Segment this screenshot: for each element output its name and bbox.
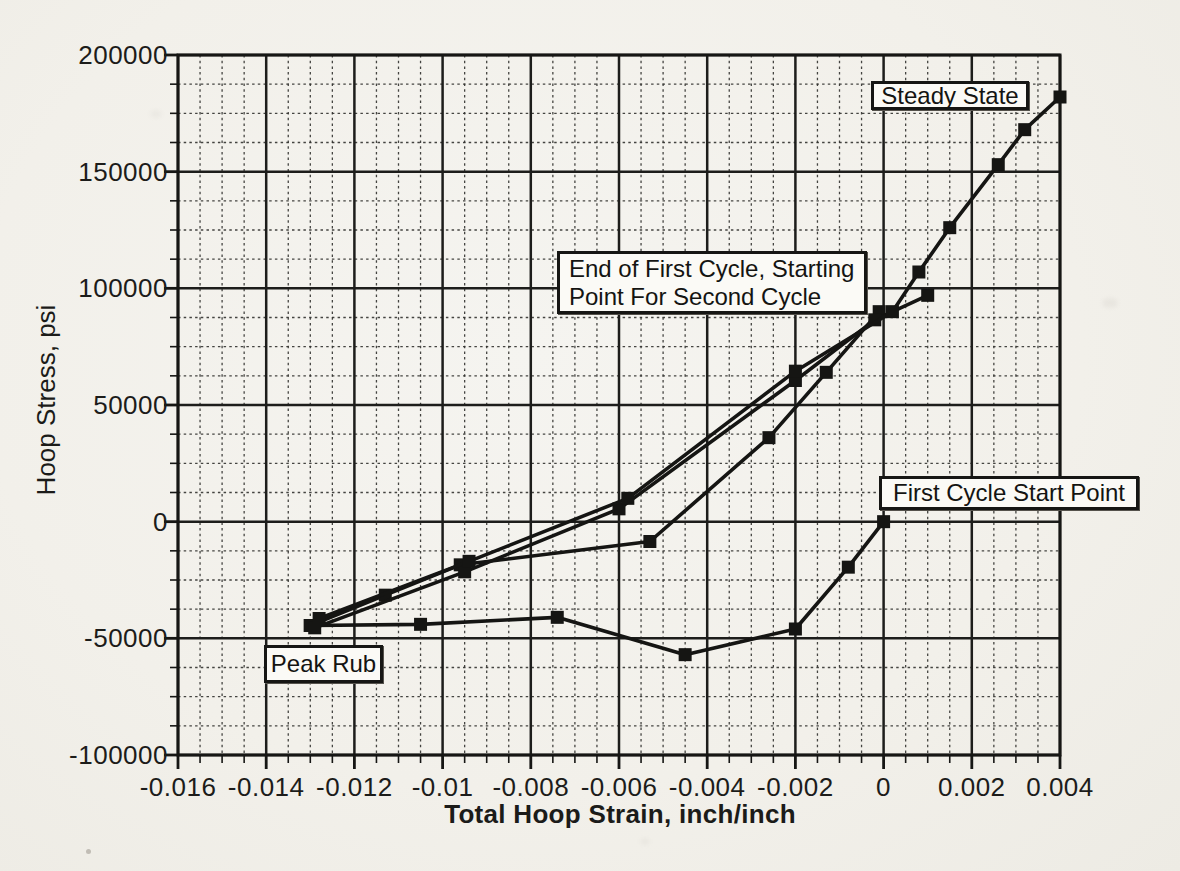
data-point-marker [789, 623, 802, 636]
data-point-marker [820, 366, 833, 379]
y-tick-label: -100000 [8, 740, 168, 771]
data-point-marker [886, 305, 899, 318]
data-point-marker [463, 555, 476, 568]
chart-canvas [0, 0, 1180, 871]
annotation-first-cycle-start-point: First Cycle Start Point [879, 476, 1139, 510]
data-point-marker [992, 158, 1005, 171]
y-axis-title: Hoop Stress, psi [31, 305, 62, 496]
data-point-marker [621, 492, 634, 505]
data-point-marker [1054, 91, 1067, 104]
annotation-end-of-first-cycle: End of First Cycle, Starting Point For S… [557, 251, 867, 314]
x-tick-label: 0.004 [990, 772, 1130, 803]
data-point-marker [313, 612, 326, 625]
annotation-steady-state: Steady State [871, 81, 1029, 110]
data-point-marker [1018, 123, 1031, 136]
data-point-marker [921, 289, 934, 302]
y-tick-label: -50000 [8, 623, 168, 654]
series-line-steady-state-cycle-loading [319, 97, 1060, 619]
x-axis-title: Total Hoop Strain, inch/inch [320, 799, 920, 830]
data-point-marker [877, 515, 890, 528]
data-point-marker [762, 431, 775, 444]
stress-strain-chart: 200000150000100000500000-50000-100000-0.… [0, 0, 1180, 871]
data-point-marker [551, 611, 564, 624]
y-tick-label: 100000 [8, 273, 168, 304]
data-point-marker [842, 561, 855, 574]
data-point-marker [789, 365, 802, 378]
data-point-marker [643, 535, 656, 548]
series-first-cycle-reloading-to-end-of-cycle [304, 305, 886, 632]
y-tick-label: 200000 [8, 40, 168, 71]
data-point-marker [943, 221, 956, 234]
data-point-marker [414, 618, 427, 631]
y-tick-label: 150000 [8, 157, 168, 188]
series-second-cycle-unloading [308, 289, 934, 634]
data-point-marker [679, 648, 692, 661]
annotation-peak-rub: Peak Rub [264, 645, 383, 683]
data-point-marker [912, 266, 925, 279]
y-tick-label: 0 [8, 507, 168, 538]
series-line-first-cycle-reloading-to-end-of-cycle [310, 312, 879, 626]
